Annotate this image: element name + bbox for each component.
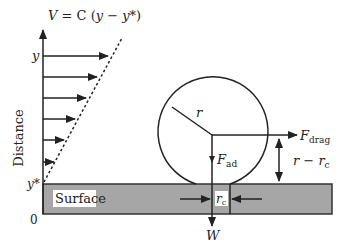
adhesion-force-label: Fad <box>216 152 237 169</box>
axis-tick-y: y <box>31 48 40 63</box>
lever-arm-label: r − rc <box>293 153 330 170</box>
drag-force-label: Fdrag <box>299 128 330 145</box>
velocity-arrows <box>43 56 108 162</box>
axis-tick-ystar: y* <box>26 177 40 191</box>
particle-adhesion-diagram: Surface Distance y y* 0 V = C (y − y*) r… <box>0 0 345 249</box>
surface-label: Surface <box>55 191 106 206</box>
axis-origin: 0 <box>30 213 38 227</box>
weight-label: W <box>206 228 221 243</box>
adhesion-arrowhead <box>209 156 215 163</box>
axis-label-distance: Distance <box>11 109 26 167</box>
particle-circle <box>158 77 268 184</box>
velocity-equation: V = C (y − y*) <box>48 8 141 23</box>
radius-line <box>172 107 212 135</box>
velocity-profile-line <box>44 38 122 182</box>
radius-label: r <box>196 105 203 120</box>
